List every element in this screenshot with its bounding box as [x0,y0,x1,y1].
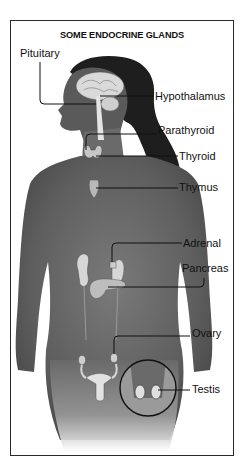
right-ovary [111,354,118,363]
label-thyroid: Thyroid [179,150,216,162]
label-ovary: Ovary [192,327,221,339]
label-parathyroid: Parathyroid [158,124,214,136]
cerebellum-shape [101,97,119,111]
label-hypothalamus: Hypothalamus [155,90,225,102]
label-thymus: Thymus [179,181,218,193]
label-pituitary: Pituitary [20,47,60,59]
label-adrenal: Adrenal [183,237,221,249]
left-ovary [79,356,86,365]
label-testis: Testis [192,383,220,395]
adrenal-gland [110,262,116,268]
label-pancreas: Pancreas [182,262,228,274]
